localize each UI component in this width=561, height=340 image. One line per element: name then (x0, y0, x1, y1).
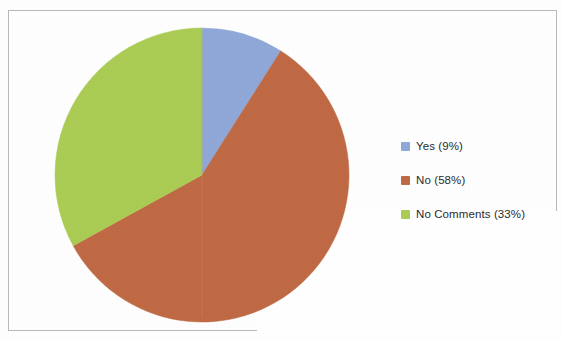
legend-item-no[interactable]: No (58%) (401, 172, 551, 189)
legend-label-yes: Yes (9%) (416, 140, 463, 153)
legend-label-no-comments: No Comments (33%) (416, 208, 525, 221)
legend-label-no: No (58%) (416, 174, 465, 187)
legend-item-yes[interactable]: Yes (9%) (401, 138, 551, 155)
legend-item-no-comments[interactable]: No Comments (33%) (401, 206, 551, 223)
chart-legend: Yes (9%) No (58%) No Comments (33%) (401, 138, 551, 223)
legend-swatch-no (401, 176, 410, 185)
pie-chart-svg: Yes (9%)No (58%)No Comments (33%) (54, 27, 350, 323)
pie-chart-plot-area: Yes (9%)No (58%)No Comments (33%) (54, 27, 350, 323)
scanned-chart-page: Yes (9%)No (58%)No Comments (33%) Yes (9… (0, 0, 561, 340)
legend-swatch-no-comments (401, 210, 410, 219)
legend-swatch-yes (401, 142, 410, 151)
